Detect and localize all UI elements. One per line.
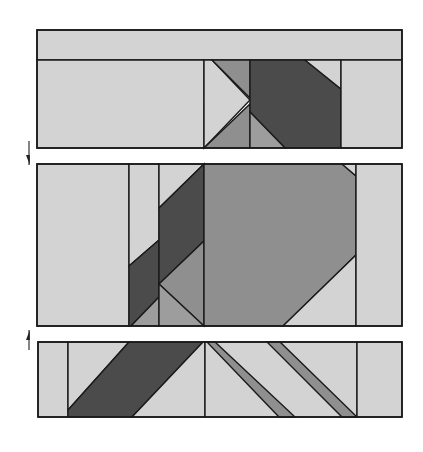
top-border-strip (37, 30, 402, 60)
right-rectangle (341, 60, 402, 148)
diagram-canvas (0, 0, 423, 452)
down-arrow-icon (26, 155, 30, 165)
up-arrow-icon (26, 330, 30, 340)
middle-row (37, 164, 402, 326)
quilt-assembly-diagram: Quilt block assembly: three rows joined (0, 0, 423, 452)
right-rectangle (357, 342, 402, 417)
left-rectangle (37, 60, 204, 148)
top-row (37, 30, 402, 148)
left-rectangle (38, 342, 68, 417)
left-rectangle (37, 164, 129, 326)
right-rectangle (356, 164, 402, 326)
bottom-row (38, 342, 402, 417)
assembly-arrows (26, 141, 30, 350)
